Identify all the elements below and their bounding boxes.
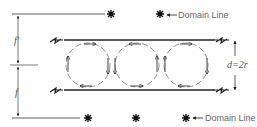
flow-arrows xyxy=(68,44,207,86)
cell-3 xyxy=(164,43,208,87)
domain-marker-icon xyxy=(107,10,115,18)
domain-marker-icon xyxy=(84,114,92,122)
cell-1 xyxy=(66,43,110,87)
label-upper-half: f′ xyxy=(14,35,20,46)
domain-marker-icon xyxy=(156,10,164,18)
gap-label: d=2r xyxy=(227,59,248,70)
roll-cells xyxy=(66,43,208,87)
cell-2 xyxy=(115,43,159,87)
label-lower-half: f xyxy=(15,87,19,98)
domain-marker-icon xyxy=(132,114,140,122)
domain-marker-icon xyxy=(182,114,190,122)
domain-line-label-top: Domain Line xyxy=(178,10,229,20)
domain-line-label-bottom: Domain Line xyxy=(205,113,256,123)
roll-cell-diagram: Domain Line f′ f d=2r xyxy=(0,0,257,127)
